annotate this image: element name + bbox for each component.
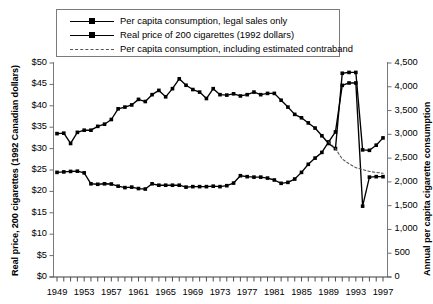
y-tick-label-right: 500: [395, 248, 411, 257]
series-marker-0: [320, 134, 324, 138]
series-marker-1: [347, 81, 351, 85]
series-marker-1: [191, 185, 195, 189]
series-marker-0: [340, 71, 344, 75]
series-marker-0: [259, 93, 263, 97]
series-marker-1: [239, 174, 243, 178]
series-marker-1: [143, 187, 147, 191]
series-marker-1: [110, 182, 114, 186]
series-marker-1: [252, 175, 256, 179]
series-marker-0: [171, 87, 175, 91]
series-marker-0: [293, 113, 297, 117]
y-tick-label-left: $35: [0, 122, 47, 131]
series-marker-0: [266, 92, 270, 96]
x-tick-label: 1993: [341, 288, 371, 297]
series-marker-1: [164, 183, 168, 187]
series-marker-1: [306, 162, 310, 166]
series-marker-0: [123, 105, 127, 109]
y-tick-label-right: 3,500: [395, 106, 418, 115]
series-marker-0: [286, 105, 290, 109]
series-marker-0: [76, 131, 80, 135]
series-marker-0: [347, 71, 351, 75]
series-marker-1: [334, 130, 338, 134]
x-tick-label: 1989: [314, 288, 344, 297]
series-marker-0: [177, 77, 181, 81]
series-marker-1: [116, 184, 120, 188]
y-tick-label-left: $25: [0, 165, 47, 174]
series-marker-0: [110, 118, 114, 122]
series-marker-0: [225, 93, 229, 97]
series-marker-1: [82, 171, 86, 175]
x-tick-label: 1953: [69, 288, 99, 297]
x-tick-label: 1977: [232, 288, 262, 297]
series-marker-1: [137, 187, 141, 191]
series-marker-0: [218, 93, 222, 97]
series-marker-1: [225, 184, 229, 188]
series-marker-0: [300, 116, 304, 120]
series-marker-1: [198, 185, 202, 189]
series-marker-0: [130, 103, 134, 107]
series-marker-0: [150, 93, 154, 97]
series-marker-1: [279, 182, 283, 186]
x-tick-label: 1997: [368, 288, 398, 297]
series-marker-1: [211, 184, 215, 188]
y-tick-label-left: $20: [0, 186, 47, 195]
series-marker-1: [374, 175, 378, 179]
series-marker-1: [218, 185, 222, 189]
series-marker-0: [273, 92, 277, 96]
y-tick-label-right: 4,500: [395, 58, 418, 67]
series-marker-0: [191, 88, 195, 92]
series-marker-0: [55, 132, 59, 136]
y-tick-label-left: $30: [0, 144, 47, 153]
series-marker-1: [184, 185, 188, 189]
series-marker-1: [103, 182, 107, 186]
y-tick-label-left: $5: [0, 251, 47, 260]
series-marker-0: [198, 90, 202, 94]
series-marker-1: [76, 169, 80, 173]
x-tick-label: 1981: [259, 288, 289, 297]
series-marker-1: [313, 156, 317, 160]
series-marker-1: [368, 175, 372, 179]
series-marker-0: [381, 136, 385, 140]
y-tick-label-left: $45: [0, 79, 47, 88]
series-marker-1: [62, 170, 66, 174]
series-marker-1: [150, 182, 154, 186]
series-marker-1: [96, 182, 100, 186]
x-tick-label: 1965: [151, 288, 181, 297]
x-tick-label: 1973: [205, 288, 235, 297]
y-tick-label-right: 2,000: [395, 177, 418, 186]
x-tick-label: 1969: [178, 288, 208, 297]
x-tick-label: 1961: [124, 288, 154, 297]
series-marker-0: [205, 97, 209, 101]
y-tick-label-left: $40: [0, 101, 47, 110]
y-tick-label-right: 0: [395, 272, 400, 281]
series-marker-1: [205, 185, 209, 189]
y-tick-label-left: $10: [0, 229, 47, 238]
series-marker-0: [313, 126, 317, 130]
series-marker-0: [211, 87, 215, 91]
x-tick-label: 1957: [96, 288, 126, 297]
series-marker-0: [245, 93, 249, 97]
series-marker-0: [89, 128, 93, 132]
y-tick-label-right: 3,000: [395, 129, 418, 138]
series-marker-0: [306, 121, 310, 125]
x-tick-label: 1949: [42, 288, 72, 297]
series-marker-1: [157, 183, 161, 187]
y-tick-label-right: 1,500: [395, 201, 418, 210]
y-tick-label-right: 1,000: [395, 224, 418, 233]
series-marker-1: [300, 171, 304, 175]
series-marker-0: [143, 100, 147, 104]
x-tick-label: 1985: [287, 288, 317, 297]
series-marker-0: [361, 148, 365, 152]
series-marker-0: [252, 90, 256, 94]
y-tick-label-right: 4,000: [395, 82, 418, 91]
series-marker-0: [354, 71, 358, 75]
y-tick-label-right: 2,500: [395, 153, 418, 162]
series-marker-0: [239, 94, 243, 98]
series-marker-1: [171, 183, 175, 187]
y-tick-label-left: $15: [0, 208, 47, 217]
series-marker-1: [123, 186, 127, 190]
series-marker-0: [279, 98, 283, 102]
series-marker-1: [273, 178, 277, 182]
series-marker-1: [89, 182, 93, 186]
series-line-0: [57, 72, 383, 150]
